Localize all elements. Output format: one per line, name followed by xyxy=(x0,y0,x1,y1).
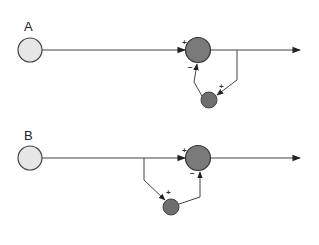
panel-b: B + − + xyxy=(18,128,300,215)
panel-a: A + − + xyxy=(18,19,300,108)
interneuron-a xyxy=(201,92,217,108)
inhibitory-feedback-a xyxy=(194,64,202,96)
plus-sign-input-a: + xyxy=(182,38,187,47)
source-neuron-b xyxy=(18,146,42,170)
feedforward-to-inter-b xyxy=(144,158,165,200)
main-neuron-b xyxy=(186,146,211,171)
main-neuron-a xyxy=(186,38,211,63)
panel-a-label: A xyxy=(24,19,33,34)
plus-sign-input-b: + xyxy=(182,146,187,155)
interneuron-b xyxy=(163,199,179,215)
minus-sign-b: − xyxy=(190,169,195,178)
circuit-diagram: A + − + B + − + xyxy=(0,0,319,245)
minus-sign-a: − xyxy=(188,63,193,72)
panel-b-label: B xyxy=(24,128,33,143)
plus-sign-inter-b: + xyxy=(166,188,171,197)
plus-sign-inter-a: + xyxy=(219,82,224,91)
source-neuron-a xyxy=(18,38,42,62)
